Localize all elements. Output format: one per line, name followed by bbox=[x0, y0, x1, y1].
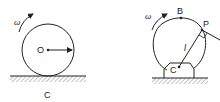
ground-hatch bbox=[152, 78, 208, 84]
diagram-canvas: ω O C ω B P l C bbox=[0, 0, 220, 102]
rotation-arrow-icon bbox=[19, 14, 33, 32]
point-p-label: P bbox=[203, 19, 209, 29]
figure-rotating-wheel: ω B P l C bbox=[145, 6, 220, 84]
point-b-dot bbox=[180, 17, 183, 20]
support-base bbox=[164, 63, 194, 78]
point-c-label: C bbox=[170, 65, 177, 75]
length-line bbox=[179, 30, 202, 67]
length-label: l bbox=[184, 43, 187, 53]
omega-label: ω bbox=[14, 18, 20, 27]
figure-rolling-wheel: ω O C bbox=[10, 14, 86, 100]
wheel-outline bbox=[153, 18, 205, 70]
caption-label: C bbox=[44, 90, 51, 100]
point-b-label: B bbox=[177, 6, 183, 16]
ground-hatch bbox=[10, 76, 86, 82]
omega-label: ω bbox=[145, 12, 151, 21]
center-label: O bbox=[37, 45, 44, 55]
